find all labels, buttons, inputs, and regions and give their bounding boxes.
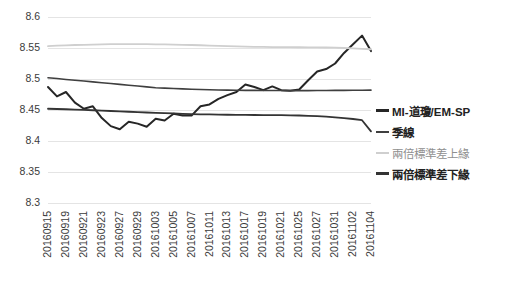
legend-item-label: 季線 — [392, 124, 414, 140]
x-axis-tick-label: 20161025 — [293, 211, 303, 258]
x-axis-tick-label: 20161104 — [365, 211, 375, 257]
y-axis-tick-label: 8.4 — [6, 135, 40, 146]
y-axis-tick-label: 8.35 — [6, 166, 40, 177]
y-axis-tick-label: 8.3 — [6, 197, 40, 208]
legend-item-label: 兩倍標準差上緣 — [392, 145, 469, 161]
legend-item[interactable]: 兩倍標準差上緣 — [376, 142, 507, 163]
x-axis-tick-label: 20161007 — [186, 211, 196, 258]
y-axis-tick-label: 8.6 — [6, 11, 40, 22]
x-axis-tick-label: 20161021 — [275, 211, 285, 258]
x-axis-tick-label: 20161031 — [329, 211, 339, 258]
legend-item-label: 兩倍標準差下緣 — [392, 166, 469, 182]
x-axis-tick-label: 20160921 — [78, 211, 88, 258]
legend-line-swatch-icon — [376, 172, 389, 175]
x-axis-tick-label: 20161017 — [239, 211, 249, 258]
legend-item[interactable]: MI-道瓊/EM-SP — [376, 100, 507, 121]
legend-item[interactable]: 季線 — [376, 121, 507, 142]
x-axis-tick-label: 20161019 — [257, 211, 267, 258]
series-lines — [48, 36, 371, 132]
legend-item[interactable]: 兩倍標準差下緣 — [376, 163, 507, 184]
y-axis-tick-label: 8.55 — [6, 42, 40, 53]
line-chart: 8.38.358.48.458.58.558.6 201609152016091… — [0, 0, 507, 293]
legend-line-swatch-icon — [376, 131, 389, 133]
y-axis-tick-label: 8.5 — [6, 73, 40, 84]
legend-line-swatch-icon — [376, 109, 389, 112]
x-axis-tick-label: 20160919 — [60, 211, 70, 258]
legend-line-swatch-icon — [376, 152, 389, 154]
x-axis-tick-label: 20161102 — [347, 211, 357, 257]
x-axis-tick-label: 20161013 — [221, 211, 231, 258]
chart-legend: MI-道瓊/EM-SP季線兩倍標準差上緣兩倍標準差下緣 — [376, 100, 507, 184]
x-axis-tick-label: 20160927 — [114, 211, 124, 258]
legend-item-label: MI-道瓊/EM-SP — [392, 103, 470, 119]
x-axis-tick-label: 20161003 — [150, 211, 160, 258]
x-axis-tick-label: 20160915 — [42, 211, 52, 258]
x-axis-tick-label: 20161005 — [168, 211, 178, 258]
x-axis-tick-label: 20161027 — [311, 211, 321, 258]
x-axis-tick-label: 20160923 — [96, 211, 106, 258]
x-axis-tick-label: 20160929 — [132, 211, 142, 258]
x-axis-tick-label: 20161011 — [204, 211, 214, 257]
y-axis-tick-label: 8.45 — [6, 104, 40, 115]
